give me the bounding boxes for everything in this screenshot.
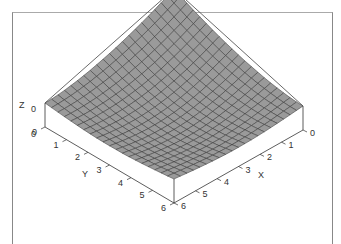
x-tick-label: 6 <box>181 201 186 211</box>
x-axis-label: X <box>258 170 264 180</box>
x-tick-label: 3 <box>246 165 251 175</box>
surface-plot: 01234560123456YXZ00 <box>0 0 341 244</box>
y-tick-label: 6 <box>161 203 166 213</box>
y-tick-label: 4 <box>118 178 123 188</box>
x-tick-label: 4 <box>224 177 229 187</box>
y-tick-label: 3 <box>97 165 102 175</box>
y-axis-label: Y <box>82 169 88 179</box>
z-tick-label: 0 <box>31 104 36 114</box>
y-tick-label: 2 <box>75 152 80 162</box>
x-tick-label: 0 <box>310 128 315 138</box>
y-tick-label: 5 <box>140 190 145 200</box>
z-axis-label: Z <box>19 100 25 110</box>
z-tick-label: 0 <box>31 129 36 139</box>
x-tick-label: 5 <box>203 189 208 199</box>
x-tick-label: 2 <box>267 152 272 162</box>
x-tick-label: 1 <box>289 140 294 150</box>
y-tick-label: 1 <box>54 140 59 150</box>
